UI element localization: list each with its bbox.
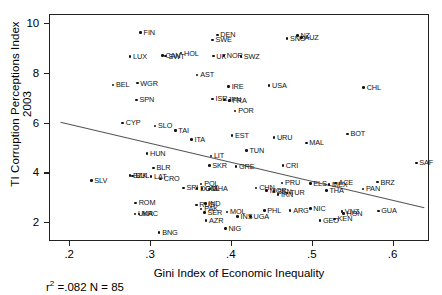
data-point	[377, 210, 380, 213]
data-point	[208, 188, 211, 191]
data-point	[265, 189, 268, 192]
data-point-label: POR	[238, 107, 254, 114]
plot-area: FINDENSWESNGNZAUZLUXCANSWTHOLUKNORSWZAST…	[49, 14, 429, 241]
data-point	[235, 165, 238, 168]
data-point-label: UGA	[254, 213, 270, 220]
data-point	[231, 134, 234, 137]
caption-values: =.082 N = 85	[54, 281, 124, 293]
stats-caption: r2 =.082 N = 85	[46, 279, 124, 293]
data-point	[223, 99, 226, 102]
x-tick-mark	[150, 241, 151, 246]
data-point	[319, 219, 322, 222]
data-point	[223, 54, 226, 57]
data-point-label: GEO	[323, 217, 339, 224]
data-point-label: EST	[235, 132, 249, 139]
data-point	[228, 99, 231, 102]
data-point-label: BUL	[135, 172, 149, 179]
data-point	[305, 142, 308, 145]
data-point-label: FRA	[232, 97, 246, 104]
data-point	[273, 136, 276, 139]
data-point	[90, 179, 93, 182]
data-point-label: ITA	[194, 136, 205, 143]
data-point	[309, 182, 312, 185]
data-point	[211, 39, 214, 42]
x-tick-label: .5	[307, 248, 317, 260]
y-tick-label: 6	[33, 117, 39, 129]
data-point-label: HUN	[150, 150, 166, 157]
y-tick-label: 2	[33, 216, 39, 228]
x-tick-mark	[69, 241, 70, 246]
data-point-label: BEL	[116, 81, 130, 88]
data-point	[224, 227, 227, 230]
data-point	[325, 189, 328, 192]
data-point	[227, 85, 230, 88]
data-point	[134, 202, 137, 205]
data-point-label: SWT	[169, 53, 185, 60]
data-point	[333, 218, 336, 221]
data-point	[245, 149, 248, 152]
data-point-label: AUZ	[304, 34, 318, 41]
data-point-label: GRE	[239, 163, 255, 170]
data-point-label: LUX	[133, 53, 147, 60]
data-point-label: FIN	[144, 29, 155, 36]
x-tick-mark	[231, 241, 232, 246]
data-point-label: GUA	[381, 207, 397, 214]
y-tick-label: 10	[26, 17, 39, 29]
data-point-label: SER	[207, 209, 222, 216]
data-point-label: CHL	[367, 84, 381, 91]
data-point-label: AZR	[209, 217, 223, 224]
data-point-label: BRZ	[380, 179, 394, 186]
data-point-label: CYP	[126, 119, 141, 126]
data-point	[282, 164, 285, 167]
data-point-label: NIG	[228, 225, 241, 232]
data-point-label: TUR	[290, 189, 305, 196]
data-point-label: HOL	[184, 50, 199, 57]
x-tick-mark	[312, 241, 313, 246]
data-point-label: BOT	[351, 130, 366, 137]
data-point-label: SPN	[140, 96, 155, 103]
data-point	[131, 175, 134, 178]
data-point-label: BNG	[162, 229, 178, 236]
data-point-label: URU	[277, 134, 293, 141]
y-axis-title: TI Corruption Perceptions Index 2003	[9, 9, 33, 199]
data-point-label: SLV	[94, 177, 107, 184]
data-point	[208, 164, 211, 167]
data-point	[415, 162, 418, 165]
data-point-label: ROM	[139, 199, 156, 206]
x-tick-label: .6	[388, 248, 398, 260]
data-point	[139, 31, 142, 34]
x-tick-label: .3	[145, 248, 155, 260]
data-point-label: THA	[330, 187, 344, 194]
data-point	[135, 99, 138, 102]
data-point	[190, 138, 193, 141]
data-point-label: MAC	[142, 210, 158, 217]
data-point	[152, 167, 155, 170]
data-point-label: LIT	[214, 152, 224, 159]
data-point	[201, 187, 204, 190]
data-point-label: CRI	[286, 162, 298, 169]
data-point-label: SAF	[419, 159, 433, 166]
data-point	[334, 182, 337, 185]
y-tick-label: 8	[33, 67, 39, 79]
y-tick-label: 4	[33, 166, 39, 178]
data-point	[273, 190, 276, 193]
data-point-label: WGR	[140, 80, 158, 87]
data-point	[300, 36, 303, 39]
data-point-label: KEN	[338, 215, 353, 222]
data-point	[286, 37, 289, 40]
data-point-label: ARG	[293, 207, 309, 214]
data-point-label: SLO	[158, 122, 172, 129]
scatter-plot-figure: TI Corruption Perceptions Index 2003 246…	[0, 0, 442, 295]
data-point-label: USA	[272, 82, 287, 89]
x-tick-label: .4	[226, 248, 236, 260]
data-point-label: PHL	[267, 207, 281, 214]
data-point	[362, 86, 365, 89]
data-point	[161, 54, 164, 57]
x-axis-title: Gini Index of Economic Inequality	[49, 267, 429, 279]
data-point	[182, 187, 185, 190]
data-point-label: NIC	[313, 205, 325, 212]
data-point-label: PRU	[285, 179, 300, 186]
data-point-label: CRO	[164, 175, 180, 182]
data-point	[174, 129, 177, 132]
data-point-label: SKR	[212, 162, 227, 169]
